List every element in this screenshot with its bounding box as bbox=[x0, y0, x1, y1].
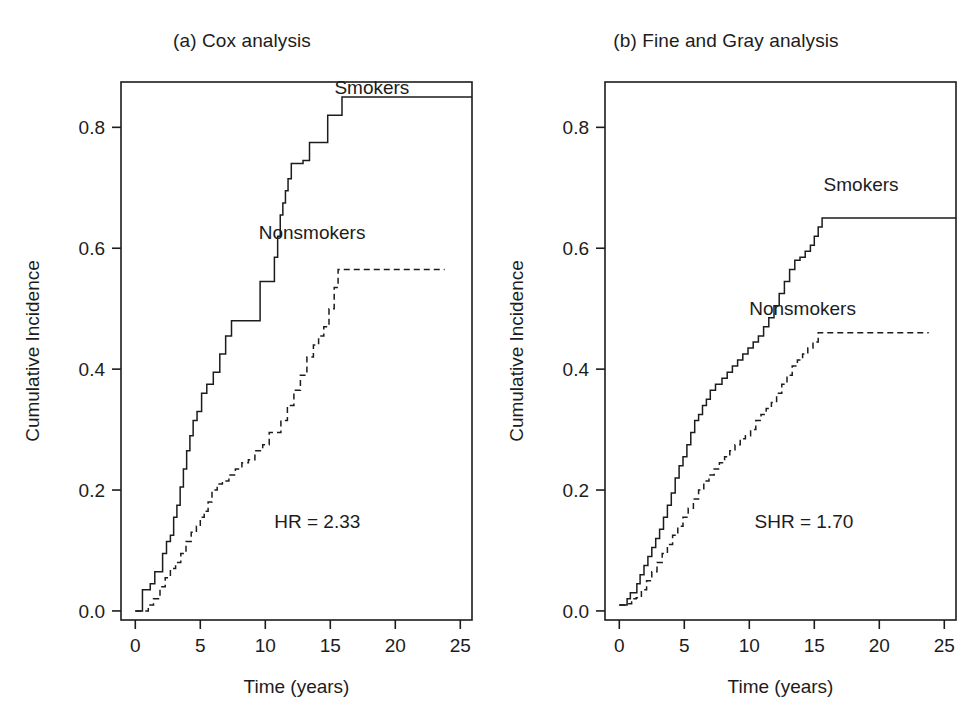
panel-a-plot: 05101520250.00.20.40.60.8Time (years)Cum… bbox=[0, 0, 484, 726]
x-tick-label: 20 bbox=[869, 635, 890, 656]
x-tick-label: 10 bbox=[739, 635, 760, 656]
subdistribution-hazard-ratio-annotation: SHR = 1.70 bbox=[755, 511, 854, 532]
y-tick-label: 0.6 bbox=[79, 238, 105, 259]
figure-canvas: (a) Cox analysis 05101520250.00.20.40.60… bbox=[0, 0, 968, 726]
plot-frame bbox=[121, 82, 472, 620]
y-tick-label: 0.0 bbox=[79, 601, 105, 622]
panel-fine-and-gray-analysis: (b) Fine and Gray analysis 05101520250.0… bbox=[484, 0, 968, 726]
plot-frame bbox=[605, 82, 956, 620]
series-label-nonsmokers: Nonsmokers bbox=[259, 222, 366, 243]
y-tick-label: 0.4 bbox=[79, 359, 106, 380]
x-tick-label: 15 bbox=[320, 635, 341, 656]
x-tick-label: 15 bbox=[804, 635, 825, 656]
y-tick-label: 0.8 bbox=[563, 117, 589, 138]
y-tick-label: 0.6 bbox=[563, 238, 589, 259]
x-tick-label: 5 bbox=[195, 635, 206, 656]
x-tick-label: 20 bbox=[385, 635, 406, 656]
y-tick-label: 0.4 bbox=[563, 359, 590, 380]
series-label-smokers: Smokers bbox=[334, 77, 409, 98]
y-tick-label: 0.8 bbox=[79, 117, 105, 138]
curve-smokers bbox=[135, 97, 472, 611]
x-tick-label: 10 bbox=[255, 635, 276, 656]
x-tick-label: 5 bbox=[679, 635, 690, 656]
x-tick-label: 25 bbox=[934, 635, 955, 656]
x-tick-label: 0 bbox=[614, 635, 625, 656]
panel-cox-analysis: (a) Cox analysis 05101520250.00.20.40.60… bbox=[0, 0, 484, 726]
panel-b-plot: 05101520250.00.20.40.60.8Time (years)Cum… bbox=[484, 0, 968, 726]
y-tick-label: 0.2 bbox=[79, 480, 105, 501]
y-tick-label: 0.0 bbox=[563, 601, 589, 622]
y-tick-label: 0.2 bbox=[563, 480, 589, 501]
x-axis-title: Time (years) bbox=[244, 676, 350, 697]
x-tick-label: 25 bbox=[450, 635, 471, 656]
series-label-nonsmokers: Nonsmokers bbox=[749, 298, 856, 319]
y-axis-title: Cumulative Incidence bbox=[506, 260, 527, 442]
x-tick-label: 0 bbox=[130, 635, 141, 656]
y-axis-title: Cumulative Incidence bbox=[22, 260, 43, 442]
curve-smokers bbox=[619, 218, 956, 605]
series-label-smokers: Smokers bbox=[824, 174, 899, 195]
curve-nonsmokers bbox=[135, 269, 444, 611]
curve-nonsmokers bbox=[619, 333, 928, 605]
hazard-ratio-annotation: HR = 2.33 bbox=[274, 511, 360, 532]
x-axis-title: Time (years) bbox=[728, 676, 834, 697]
